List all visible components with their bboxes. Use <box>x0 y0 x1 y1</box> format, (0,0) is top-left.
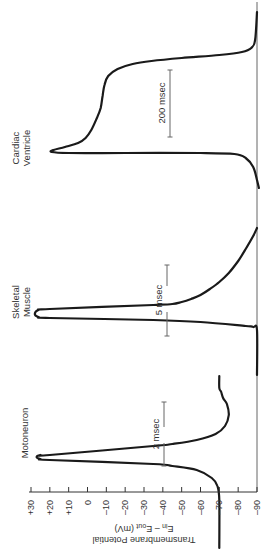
tick-label: –20 <box>120 500 130 515</box>
tick-label: –50 <box>177 500 187 515</box>
tick-label: –90 <box>252 500 262 515</box>
tick-label: +10 <box>64 500 74 515</box>
scale-bar-5-msec: 5 msec <box>153 265 170 336</box>
scale-bar-label: 200 msec <box>156 82 167 123</box>
traces <box>35 12 259 548</box>
tick-label: –60 <box>196 500 206 515</box>
y-axis: +30+20+100–10–20–30–40–50–60–70–80–90 <box>26 487 262 515</box>
axis-label-line2: Ein – Eout (mV) <box>114 523 173 534</box>
tick-label: +30 <box>26 500 36 515</box>
tick-label: –10 <box>101 500 111 515</box>
scale-bar-2-msec: 2 msec <box>150 402 167 466</box>
scale-bar-200-msec: 200 msec <box>156 70 173 137</box>
axis-label-line1: Transmembrane Potential <box>92 535 195 545</box>
trace-skeletal-muscle <box>35 228 257 375</box>
scale-bar-label: 5 msec <box>153 284 164 315</box>
tick-label: +20 <box>45 500 55 515</box>
action-potential-chart: 2 msec5 msec200 msec MotoneuronSkeletalM… <box>0 0 272 554</box>
tick-label: –40 <box>158 500 168 515</box>
scale-bar-label: 2 msec <box>150 418 161 449</box>
scale-bars: 2 msec5 msec200 msec <box>150 70 173 466</box>
trace-label-skeletal-muscle: SkeletalMuscle <box>10 285 31 319</box>
trace-labels: MotoneuronSkeletalMuscleCardiacVentricle <box>10 130 31 459</box>
trace-label-motoneuron: Motoneuron <box>19 408 30 459</box>
trace-label-cardiac-ventricle: CardiacVentricle <box>10 130 31 166</box>
tick-label: –80 <box>233 500 243 515</box>
tick-label: –70 <box>214 500 224 515</box>
tick-label: –30 <box>139 500 149 515</box>
trace-motoneuron <box>37 376 229 548</box>
tick-label: 0 <box>83 500 93 505</box>
y-axis-label: Transmembrane PotentialEin – Eout (mV) <box>92 523 195 545</box>
